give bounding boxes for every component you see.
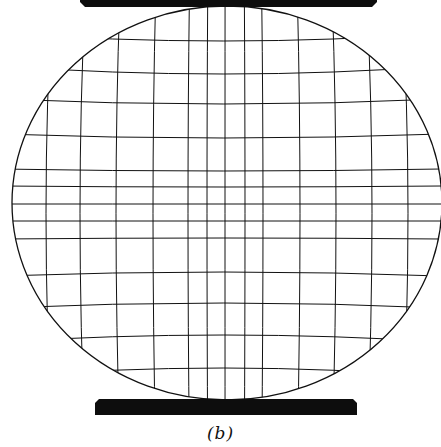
grid-horizontal-line bbox=[0, 368, 441, 377]
grid-horizontal-line bbox=[0, 99, 441, 104]
grid-vertical-line bbox=[153, 0, 156, 447]
disc-outline bbox=[12, 6, 441, 400]
bottom-platen bbox=[95, 399, 357, 415]
grid-vertical-line bbox=[80, 0, 85, 447]
grid-vertical-line bbox=[297, 0, 300, 447]
grid-vertical-line bbox=[188, 0, 189, 447]
grid-vertical-line bbox=[332, 0, 336, 447]
grid-vertical-line bbox=[116, 0, 120, 447]
deformed-grid-diagram bbox=[0, 0, 441, 447]
grid-vertical-line bbox=[207, 0, 208, 447]
deformed-grid bbox=[0, 0, 441, 447]
grid-horizontal-line bbox=[0, 238, 441, 239]
grid-horizontal-line bbox=[0, 303, 441, 308]
grid-vertical-line bbox=[402, 0, 408, 447]
grid-horizontal-line bbox=[0, 33, 441, 41]
top-platen bbox=[80, 0, 377, 7]
grid-vertical-line bbox=[244, 0, 245, 447]
grid-vertical-line bbox=[46, 0, 52, 447]
grid-horizontal-line bbox=[0, 134, 441, 138]
figure-caption: (b) bbox=[0, 423, 441, 443]
grid-horizontal-line bbox=[0, 186, 441, 187]
grid-horizontal-line bbox=[0, 335, 441, 342]
grid-vertical-line bbox=[262, 0, 263, 447]
grid-horizontal-line bbox=[0, 169, 441, 171]
grid-vertical-line bbox=[367, 0, 372, 447]
grid-horizontal-line bbox=[0, 272, 441, 276]
